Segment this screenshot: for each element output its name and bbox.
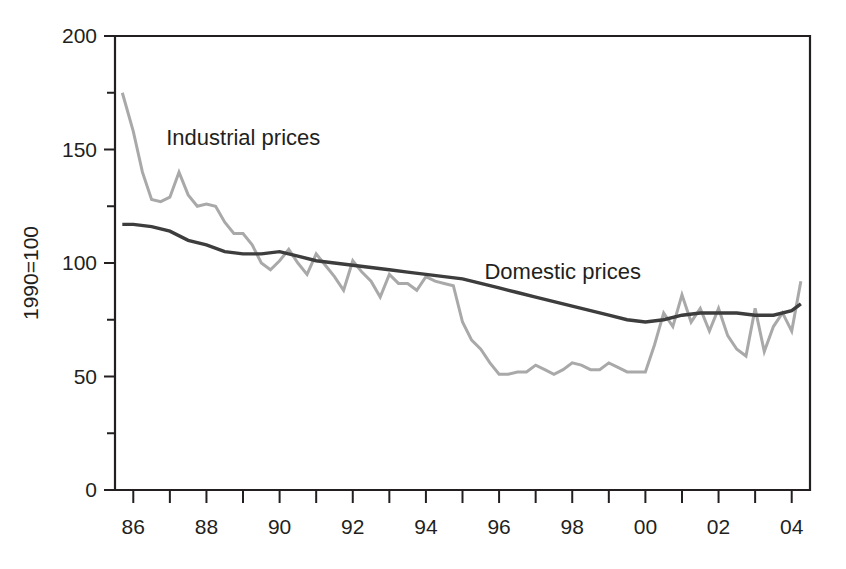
y-tick-label: 0 [85,478,97,501]
y-tick-label: 200 [62,24,97,47]
x-tick-label: 00 [634,515,657,538]
annotations-group: Industrial pricesDomestic prices [166,125,641,284]
y-tick-label: 150 [62,138,97,161]
y-axis-title: 1990=100 [19,226,42,320]
plot-frame [115,36,810,490]
line-chart: 05010015020086889092949698000204 Industr… [0,0,846,569]
series-annotation-industrial-prices: Industrial prices [166,125,320,150]
x-tick-label: 96 [487,515,510,538]
y-tick-label: 50 [74,365,97,388]
x-tick-label: 02 [707,515,730,538]
tick-marks-group [104,36,792,503]
series-line-domestic-prices [122,224,801,322]
x-tick-label: 04 [780,515,804,538]
series-annotation-domestic-prices: Domestic prices [484,259,640,284]
axes-group [115,36,810,490]
chart-container: 05010015020086889092949698000204 Industr… [0,0,846,569]
x-tick-label: 94 [414,515,438,538]
x-tick-label: 88 [195,515,218,538]
x-tick-label: 92 [341,515,364,538]
y-tick-label: 100 [62,251,97,274]
axis-title-group: 1990=100 [19,226,42,320]
x-tick-label: 86 [122,515,145,538]
x-tick-label: 90 [268,515,291,538]
x-tick-label: 98 [561,515,584,538]
